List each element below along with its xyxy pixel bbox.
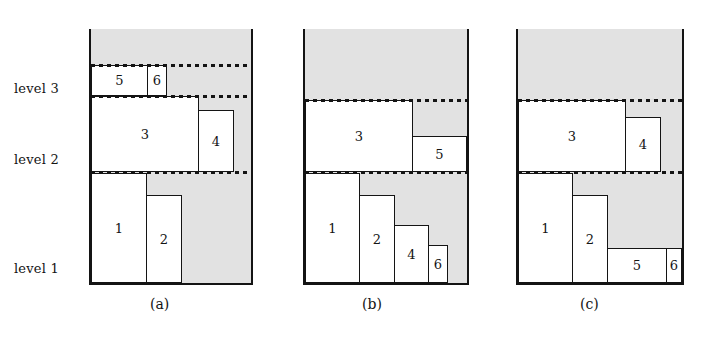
panel-c-box-4: 4: [625, 117, 661, 172]
panel-c-caption: (c): [580, 296, 599, 312]
panel-c-level-divider-1: [518, 99, 682, 102]
panel-c-box-3-label: 3: [568, 130, 576, 143]
panel-c-right-wall: [682, 29, 684, 285]
panel-c-box-4-label: 4: [639, 138, 647, 151]
panel-c-box-2: 2: [572, 195, 608, 283]
panel-c-floor: [516, 283, 684, 285]
panel-c-box-1-label: 1: [541, 222, 549, 235]
panel-c-box-3: 3: [518, 100, 626, 172]
panel-c-box-6-label: 6: [670, 259, 678, 272]
panel-c: 123456: [0, 0, 703, 346]
panel-c-level-divider-2: [518, 171, 682, 174]
panel-c-box-1: 1: [518, 173, 573, 283]
panel-c-left-wall: [516, 29, 518, 285]
panel-c-box-6: 6: [666, 248, 682, 283]
panel-c-box-2-label: 2: [586, 233, 594, 246]
panel-c-box-5-label: 5: [633, 259, 641, 272]
panel-c-box-5: 5: [607, 248, 667, 283]
packing-levels-figure: level 3level 2level 1123456(a)123456(b)1…: [0, 0, 703, 346]
